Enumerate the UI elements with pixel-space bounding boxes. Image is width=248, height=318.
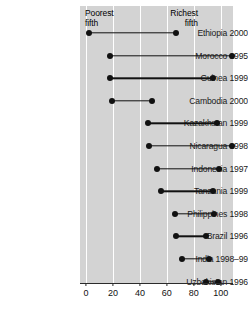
x-tick-label: 20 bbox=[108, 288, 118, 298]
gridline-0 bbox=[86, 6, 87, 283]
data-point-poorest bbox=[86, 30, 92, 36]
x-axis-line bbox=[80, 283, 233, 284]
x-tick-label: 0 bbox=[83, 288, 88, 298]
data-point-richest bbox=[211, 211, 217, 217]
gridline-40 bbox=[140, 6, 141, 283]
data-point-poorest bbox=[172, 211, 178, 217]
range-connector bbox=[149, 145, 231, 146]
x-tick-80 bbox=[193, 283, 194, 286]
data-point-richest bbox=[149, 98, 155, 104]
x-tick-40 bbox=[139, 283, 140, 286]
gridline-20 bbox=[113, 6, 114, 283]
data-point-richest bbox=[229, 143, 235, 149]
x-tick-100 bbox=[220, 283, 221, 286]
range-connector bbox=[110, 77, 212, 78]
data-point-richest bbox=[216, 166, 222, 172]
x-tick-20 bbox=[112, 283, 113, 286]
data-point-richest bbox=[229, 53, 235, 59]
data-point-poorest bbox=[173, 233, 179, 239]
data-point-richest bbox=[173, 30, 179, 36]
range-connector bbox=[157, 168, 219, 169]
range-connector bbox=[176, 236, 206, 237]
data-point-richest bbox=[206, 256, 212, 262]
data-point-poorest bbox=[146, 143, 152, 149]
data-point-poorest bbox=[107, 75, 113, 81]
data-point-poorest bbox=[158, 188, 164, 194]
data-point-poorest bbox=[179, 256, 185, 262]
data-point-poorest bbox=[154, 166, 160, 172]
data-point-richest bbox=[203, 233, 209, 239]
data-point-poorest bbox=[109, 98, 115, 104]
x-tick-label: 80 bbox=[189, 288, 199, 298]
data-point-richest bbox=[210, 188, 216, 194]
poorest-fifth-caption: Poorest fifth bbox=[85, 9, 114, 28]
row-label: Cambodia 2000 bbox=[172, 96, 248, 106]
range-connector bbox=[175, 213, 214, 214]
data-point-richest bbox=[210, 75, 216, 81]
data-point-poorest bbox=[145, 120, 151, 126]
richest-fifth-caption: Richest fifth bbox=[148, 9, 198, 28]
x-tick-60 bbox=[166, 283, 167, 286]
range-connector bbox=[112, 100, 152, 101]
range-connector bbox=[148, 123, 217, 124]
x-tick-label: 60 bbox=[162, 288, 172, 298]
x-tick-0 bbox=[85, 283, 86, 286]
data-point-poorest bbox=[107, 53, 113, 59]
range-connector bbox=[110, 55, 231, 56]
range-connector bbox=[182, 258, 209, 259]
row-label: Ethiopia 2000 bbox=[172, 28, 248, 38]
x-tick-label: 40 bbox=[135, 288, 145, 298]
chart-figure: Poorest fifth Richest fifth Ethiopia 200… bbox=[0, 0, 248, 318]
range-connector bbox=[161, 190, 212, 191]
x-tick-label: 100 bbox=[213, 288, 228, 298]
range-connector bbox=[89, 32, 177, 33]
data-point-richest bbox=[214, 120, 220, 126]
